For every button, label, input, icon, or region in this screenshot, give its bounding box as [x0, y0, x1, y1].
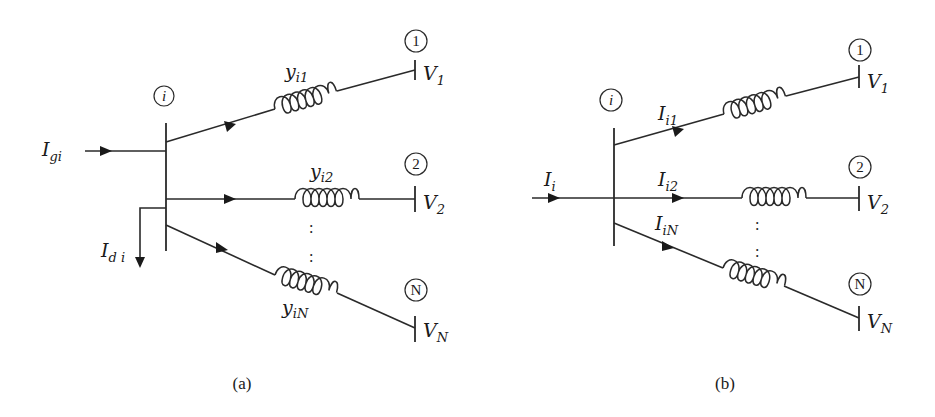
- svg-text:V1: V1: [867, 70, 889, 96]
- svg-text:VN: VN: [423, 319, 449, 345]
- arrow-right-icon: [100, 146, 112, 156]
- inductor-coil-icon: [742, 188, 806, 206]
- diagram-a: i Igi Id i 1: [41, 30, 449, 393]
- arrow-right-icon: [672, 193, 684, 203]
- svg-text:V2: V2: [423, 191, 445, 217]
- ellipsis-dots: :: [755, 243, 759, 260]
- svg-text:Igi: Igi: [41, 138, 62, 164]
- svg-text:yi2: yi2: [309, 160, 333, 185]
- svg-text:IiN: IiN: [654, 212, 679, 238]
- caption-b: (b): [715, 374, 735, 393]
- arrow-icon: [224, 121, 236, 132]
- svg-text:VN: VN: [867, 310, 893, 336]
- branch-n: N yiN VN: [166, 225, 449, 345]
- node-n-label: N: [411, 282, 422, 298]
- arrow-icon: [216, 242, 228, 253]
- branch-1: 1 yi1 V1: [166, 30, 445, 142]
- svg-text:yi1: yi1: [284, 60, 308, 85]
- inductor-coil-icon: [721, 86, 787, 121]
- node-i-label: i: [609, 92, 613, 108]
- node-2-label: 2: [412, 156, 420, 172]
- ellipsis-dots: :: [755, 216, 759, 233]
- branch-1: 1 Ii1 V1: [614, 39, 889, 145]
- svg-text:Ii2: Ii2: [657, 168, 678, 194]
- ellipsis-dots: :: [309, 248, 313, 265]
- svg-text:Ii1: Ii1: [657, 102, 678, 128]
- arrow-right-icon: [224, 194, 236, 204]
- diagram-b: i Ii 1 Ii1 V1: [532, 39, 893, 393]
- arrow-right-icon: [548, 193, 560, 203]
- inductor-coil-icon: [721, 258, 787, 293]
- load-current-idi: Id i: [100, 208, 166, 268]
- node-i-marker: i: [600, 89, 622, 111]
- inductor-coil-icon: [273, 265, 339, 300]
- caption-a: (a): [233, 374, 252, 393]
- node-i-marker: i: [154, 86, 174, 106]
- svg-text:V2: V2: [867, 191, 889, 217]
- branch-2: 2 Ii2 V2: [657, 156, 889, 217]
- injection-current-igi: Igi: [41, 138, 166, 164]
- node-i-label: i: [162, 88, 166, 104]
- node-n-label: N: [855, 276, 866, 292]
- svg-text:V1: V1: [423, 62, 445, 88]
- branch-2: 2 yi2 V2: [166, 153, 445, 217]
- inductor-coil-icon: [272, 81, 338, 116]
- injection-current-ii: Ii: [532, 168, 742, 203]
- ellipsis-dots: :: [309, 219, 313, 236]
- arrow-icon: [662, 241, 674, 251]
- bus-network-figure: i Igi Id i 1: [0, 0, 935, 417]
- svg-text:Id i: Id i: [100, 239, 125, 265]
- node-1-label: 1: [412, 33, 420, 49]
- node-2-label: 2: [856, 159, 864, 175]
- svg-text:yiN: yiN: [281, 296, 309, 321]
- svg-text:Ii: Ii: [543, 168, 556, 194]
- node-1-label: 1: [856, 42, 864, 58]
- inductor-coil-icon: [295, 189, 359, 207]
- arrow-down-icon: [135, 257, 145, 268]
- branch-n: N IiN VN: [614, 212, 893, 336]
